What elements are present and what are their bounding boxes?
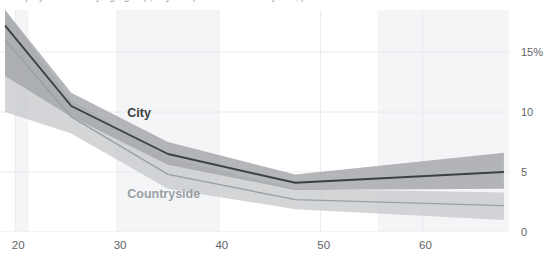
y-tick-label-0: 0 [521,227,527,238]
y-tick-label-10: 10 [521,107,533,118]
x-tick-label-40: 40 [215,240,228,252]
y-tick-label-15: 15% [521,47,543,58]
series-label-countryside: Countryside [127,188,200,201]
x-tick-label-50: 50 [317,240,330,252]
clipped-chart-title: unemployment rate by age group, city com… [0,0,558,3]
x-tick-label-20: 20 [12,240,25,252]
plot-area [0,10,509,232]
x-tick-label-30: 30 [114,240,127,252]
x-tick-label-60: 60 [419,240,432,252]
chart-container: unemployment rate by age group, city com… [0,0,558,265]
y-tick-label-5: 5 [521,167,527,178]
series-label-city: City [127,107,151,120]
plot-svg [0,10,509,232]
